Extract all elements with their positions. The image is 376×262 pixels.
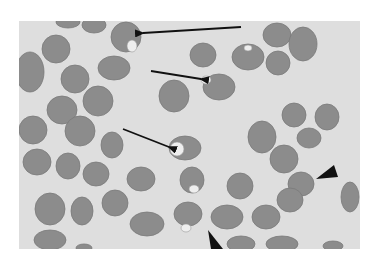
blood-smear-micrograph [0, 0, 376, 262]
red-blood-cell [34, 230, 66, 250]
red-blood-cell [83, 86, 113, 116]
red-blood-cell [227, 173, 253, 199]
red-blood-cell [159, 80, 189, 112]
red-blood-cell [266, 51, 290, 75]
red-blood-cell [190, 43, 216, 67]
red-blood-cell [61, 65, 89, 93]
red-blood-cell [315, 104, 339, 130]
red-blood-cell [35, 193, 65, 225]
cell-inclusion [170, 142, 184, 156]
cell-inclusion [201, 76, 211, 84]
red-blood-cell [297, 128, 321, 148]
red-blood-cell [282, 103, 306, 127]
red-blood-cell [289, 27, 317, 61]
red-blood-cell [16, 52, 44, 92]
red-blood-cell [65, 116, 95, 146]
cell-inclusion [244, 45, 252, 51]
red-blood-cell [270, 145, 298, 173]
red-blood-cell [130, 212, 164, 236]
red-blood-cell [71, 197, 93, 225]
red-blood-cell [19, 116, 47, 144]
red-blood-cell [101, 132, 123, 158]
red-blood-cell [248, 121, 276, 153]
cell-inclusion [181, 224, 191, 232]
red-blood-cell [252, 205, 280, 229]
red-blood-cell [263, 23, 291, 47]
cell-inclusion [189, 185, 199, 193]
red-blood-cell [98, 56, 130, 80]
red-blood-cell [211, 205, 243, 229]
red-blood-cell [42, 35, 70, 63]
red-blood-cell [102, 190, 128, 216]
red-blood-cell [23, 149, 51, 175]
red-blood-cell [174, 202, 202, 226]
red-blood-cell [127, 167, 155, 191]
red-blood-cell [277, 188, 303, 212]
red-blood-cell [341, 182, 359, 212]
red-blood-cell [56, 153, 80, 179]
red-blood-cell [83, 162, 109, 186]
cell-inclusion [127, 40, 137, 52]
